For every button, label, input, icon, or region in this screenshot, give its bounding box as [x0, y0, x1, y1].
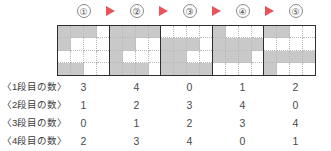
empty-cell: [97, 38, 109, 50]
pattern-row: [213, 26, 264, 38]
filled-cell: [213, 38, 226, 50]
empty-cell: [252, 63, 264, 75]
filled-cell: [277, 51, 290, 63]
filled-cell: [174, 38, 187, 50]
empty-cell: [174, 26, 187, 38]
pattern-block-1: [57, 25, 110, 76]
filled-cell: [110, 26, 123, 38]
counts-value: 4: [110, 78, 163, 96]
pattern-row: [110, 51, 161, 63]
empty-cell: [58, 51, 71, 63]
filled-cell: [200, 63, 212, 75]
empty-cell: [200, 51, 212, 63]
pattern-row: [161, 38, 212, 50]
filled-cell: [187, 63, 200, 75]
empty-cell: [97, 26, 109, 38]
pattern-row: [264, 38, 315, 50]
counts-value: 1: [57, 96, 110, 114]
counts-value: 2: [110, 96, 163, 114]
empty-cell: [303, 38, 315, 50]
counts-row: 〈1段目の数〉34012: [0, 78, 331, 96]
counts-value: 4: [216, 96, 269, 114]
empty-cell: [226, 63, 239, 75]
empty-cell: [252, 51, 264, 63]
pattern-row: [264, 51, 315, 63]
counts-row: 〈3段目の数〉01234: [0, 114, 331, 132]
filled-cell: [84, 26, 97, 38]
pattern-block-3: [160, 25, 213, 76]
play-triangle-right-icon: [106, 6, 115, 16]
counts-value: 0: [57, 114, 110, 132]
pattern-row: [161, 51, 212, 63]
empty-cell: [252, 26, 264, 38]
counts-row: 〈4段目の数〉23401: [0, 132, 331, 150]
filled-cell: [264, 51, 277, 63]
filled-cell: [239, 51, 252, 63]
empty-cell: [149, 63, 161, 75]
filled-cell: [252, 38, 264, 50]
pattern-row: [264, 26, 315, 38]
filled-cell: [136, 26, 149, 38]
counts-row-label: 〈3段目の数〉: [2, 114, 57, 132]
empty-cell: [187, 51, 200, 63]
empty-cell: [239, 63, 252, 75]
filled-cell: [226, 51, 239, 63]
pattern-block-2: [109, 25, 162, 76]
pattern-row: [264, 63, 315, 75]
empty-cell: [239, 26, 252, 38]
counts-value: 1: [216, 78, 269, 96]
empty-cell: [84, 51, 97, 63]
filled-cell: [58, 38, 71, 50]
pattern-row: [161, 26, 212, 38]
counts-row-label: 〈2段目の数〉: [2, 96, 57, 114]
step-marker-3: ③: [183, 4, 197, 18]
filled-cell: [161, 51, 174, 63]
filled-cell: [110, 51, 123, 63]
pattern-grid-strip: [57, 25, 323, 76]
filled-cell: [149, 26, 161, 38]
empty-cell: [71, 51, 84, 63]
empty-cell: [149, 51, 161, 63]
empty-cell: [226, 26, 239, 38]
empty-cell: [303, 26, 315, 38]
pattern-row: [110, 26, 161, 38]
empty-cell: [97, 51, 109, 63]
empty-cell: [290, 63, 303, 75]
step-marker-4: ④: [236, 4, 250, 18]
step-header-row: ①②③④⑤: [57, 4, 323, 22]
empty-cell: [136, 38, 149, 50]
counts-row-label: 〈1段目の数〉: [2, 78, 57, 96]
empty-cell: [290, 38, 303, 50]
counts-value: 1: [110, 114, 163, 132]
counts-value: 0: [269, 96, 322, 114]
counts-row-label: 〈4段目の数〉: [2, 132, 57, 150]
play-triangle-right-icon: [265, 6, 274, 16]
counts-value: 3: [163, 96, 216, 114]
pattern-row: [213, 63, 264, 75]
pattern-block-5: [263, 25, 316, 76]
filled-cell: [303, 51, 315, 63]
empty-cell: [303, 63, 315, 75]
filled-cell: [161, 38, 174, 50]
pattern-row: [58, 38, 109, 50]
filled-cell: [239, 38, 252, 50]
empty-cell: [123, 51, 136, 63]
empty-cell: [264, 38, 277, 50]
filled-cell: [161, 63, 174, 75]
play-triangle-right-icon: [159, 6, 168, 16]
play-triangle-right-icon: [212, 6, 221, 16]
filled-cell: [58, 63, 71, 75]
step-marker-1: ①: [77, 4, 91, 18]
counts-value: 4: [269, 114, 322, 132]
pattern-row: [213, 51, 264, 63]
empty-cell: [136, 51, 149, 63]
filled-cell: [226, 38, 239, 50]
empty-cell: [213, 63, 226, 75]
empty-cell: [97, 63, 109, 75]
step-marker-2: ②: [130, 4, 144, 18]
filled-cell: [174, 51, 187, 63]
filled-cell: [123, 26, 136, 38]
counts-value: 3: [216, 114, 269, 132]
filled-cell: [71, 26, 84, 38]
empty-cell: [84, 63, 97, 75]
